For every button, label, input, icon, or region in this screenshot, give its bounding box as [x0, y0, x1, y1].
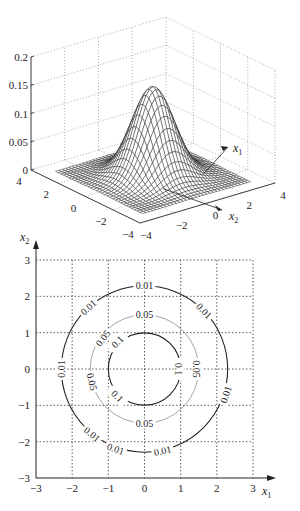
contour-label: 0.01 [218, 384, 234, 404]
figure: 00.050.10.150.2420−2−4−4−2024 x1 x2 0.10… [0, 0, 300, 511]
contour-label: 0.05 [85, 372, 100, 392]
contour-label: 0.05 [191, 360, 202, 378]
surface-x2-axis-label: x2 [228, 209, 238, 225]
z-tick-label: 0.1 [14, 108, 28, 120]
x-tick-label: −1 [102, 482, 114, 494]
x2-tick-label: −2 [95, 215, 107, 227]
contour-label: 0.05 [136, 309, 154, 320]
x1-tick-label: −2 [176, 219, 188, 231]
y-tick-label: −2 [18, 436, 30, 448]
y-tick-label: 3 [25, 254, 31, 266]
surface-plot: 00.050.10.150.2420−2−4−4−2024 x1 x2 [9, 17, 287, 241]
x-tick-label: 1 [178, 482, 184, 494]
y-tick-label: −1 [18, 399, 30, 411]
y-tick-label: 2 [25, 290, 31, 302]
y-tick-label: 1 [25, 327, 31, 339]
y-tick-label: −3 [18, 472, 30, 484]
contour-axes [33, 240, 276, 481]
x-tick-label: 3 [250, 482, 256, 494]
x2-tick-label: 4 [16, 175, 22, 187]
surface-mesh [55, 87, 250, 214]
x-tick-label: 0 [142, 482, 148, 494]
x2-tick-label: −4 [122, 228, 134, 240]
contour-x2-axis-label: x2 [19, 230, 29, 246]
x1-tick-label: 2 [247, 199, 253, 211]
contour-label: 0.05 [136, 418, 154, 429]
contour-grid [36, 260, 253, 478]
x2-tick-label: 0 [71, 202, 77, 214]
x1-tick-label: 4 [280, 189, 286, 201]
contour-plot: 0.10.10.10.050.050.050.050.050.010.010.0… [18, 230, 276, 500]
contour-label: 0.1 [173, 363, 184, 376]
svg-text:x2: x2 [19, 230, 29, 246]
x-tick-label: 2 [214, 482, 220, 494]
x1-tick-label: 0 [213, 209, 219, 221]
z-tick-label: 0 [23, 164, 29, 176]
z-tick-label: 0.15 [9, 79, 29, 91]
x2-tick-label: 2 [44, 188, 50, 200]
contour-label: 0.01 [136, 280, 154, 291]
x-tick-label: −3 [30, 482, 42, 494]
contour-label: 0.01 [153, 443, 172, 458]
surface-x1-axis-label: x1 [232, 141, 242, 157]
contour-label: 0.01 [105, 441, 125, 457]
svg-text:x2: x2 [228, 209, 238, 225]
svg-text:x1: x1 [232, 141, 242, 157]
contour-x1-axis-label: x1 [261, 484, 271, 500]
x1-tick-label: −4 [140, 229, 152, 241]
z-tick-label: 0.05 [9, 136, 29, 148]
contour-label: 0.01 [56, 360, 67, 378]
x-tick-label: −2 [66, 482, 78, 494]
y-tick-label: 0 [25, 363, 31, 375]
svg-text:x1: x1 [261, 484, 271, 500]
z-tick-label: 0.2 [14, 51, 28, 63]
